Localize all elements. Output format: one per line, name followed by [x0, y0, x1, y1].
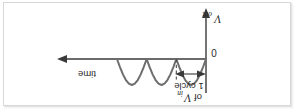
origin-label-group: 0	[211, 47, 217, 58]
figure-frame: time 0 V out 1 cycle of V in	[3, 2, 291, 106]
time-axis-label-group: time	[78, 69, 96, 80]
vout-axis	[202, 8, 210, 93]
vout-symbol-label: V	[213, 13, 222, 25]
vin-subscript-label: in	[177, 89, 183, 98]
vout-label-group: V out	[202, 10, 222, 25]
rotated-plot-container: time 0 V out 1 cycle of V in	[4, 3, 292, 107]
vout-subscript-label: out	[202, 10, 213, 19]
time-axis-label: time	[78, 69, 96, 80]
time-axis-arrowhead-icon	[57, 55, 67, 63]
time-axis	[57, 55, 206, 63]
origin-label: 0	[211, 47, 217, 58]
cycle-label-of-text: of	[194, 92, 202, 103]
waveform-plot: time 0 V out 1 cycle of V in	[4, 3, 292, 107]
